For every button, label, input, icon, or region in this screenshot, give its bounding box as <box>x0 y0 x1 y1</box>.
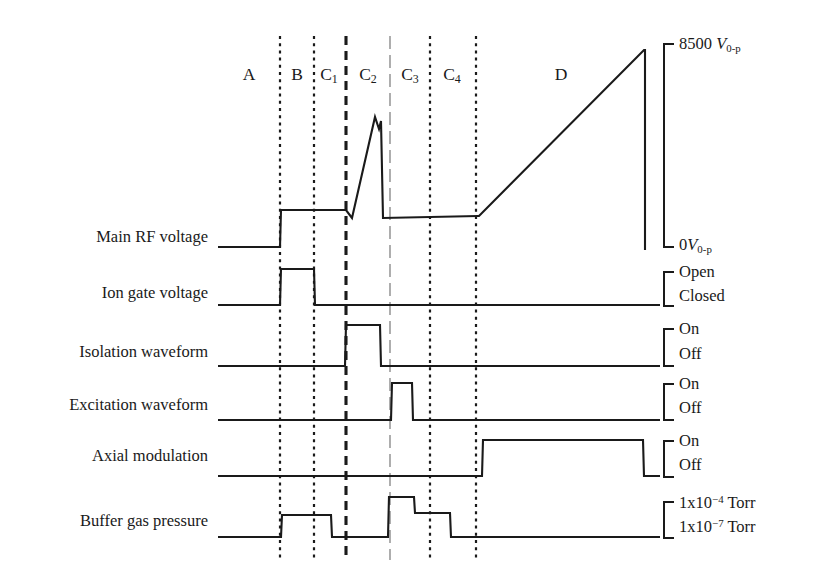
scale-bracket-excitation-waveform <box>664 384 674 420</box>
row-label-buffer-gas-pressure: Buffer gas pressure <box>0 513 208 530</box>
trace-ion-gate-voltage <box>218 269 660 305</box>
trace-buffer-gas-pressure <box>218 497 660 537</box>
scale-bottom-label-ion-gate-voltage: Closed <box>679 288 725 305</box>
scale-top-label-isolation-waveform: On <box>679 321 699 338</box>
row-label-main-rf-voltage: Main RF voltage <box>0 229 208 246</box>
scale-bottom-label-main-rf-voltage: 0V0-p <box>679 237 712 255</box>
scale-bottom-label-excitation-waveform: Off <box>679 400 702 417</box>
scale-brackets <box>664 44 674 538</box>
scale-top-label-main-rf-voltage: 8500 V0-p <box>679 36 741 54</box>
region-divider-lines <box>280 36 476 560</box>
scale-bracket-buffer-gas-pressure <box>664 502 674 538</box>
scale-bracket-axial-modulation <box>664 441 674 477</box>
scan-function-diagram: ABC1C2C3C4D Main RF voltageIon gate volt… <box>0 0 816 571</box>
scale-bracket-isolation-waveform <box>664 329 674 366</box>
scale-bracket-ion-gate-voltage <box>664 272 674 306</box>
scale-bottom-label-isolation-waveform: Off <box>679 346 702 363</box>
row-label-isolation-waveform: Isolation waveform <box>0 344 208 361</box>
scale-bottom-label-buffer-gas-pressure: 1x10−7 Torr <box>679 518 756 536</box>
row-label-excitation-waveform: Excitation waveform <box>0 397 208 414</box>
scale-top-label-axial-modulation: On <box>679 433 699 450</box>
scale-top-label-ion-gate-voltage: Open <box>679 264 715 281</box>
trace-axial-modulation <box>218 440 660 476</box>
region-label-c4: C4 <box>422 66 482 86</box>
scale-top-label-excitation-waveform: On <box>679 376 699 393</box>
scale-bracket-main-rf-voltage <box>664 44 674 247</box>
trace-excitation-waveform <box>218 383 660 420</box>
scale-bottom-label-axial-modulation: Off <box>679 457 702 474</box>
region-label-d: D <box>531 66 591 84</box>
row-label-axial-modulation: Axial modulation <box>0 448 208 465</box>
signal-traces <box>218 50 660 537</box>
scale-top-label-buffer-gas-pressure: 1x10−4 Torr <box>679 494 756 512</box>
row-label-ion-gate-voltage: Ion gate voltage <box>0 285 208 302</box>
trace-isolation-waveform <box>218 325 660 366</box>
